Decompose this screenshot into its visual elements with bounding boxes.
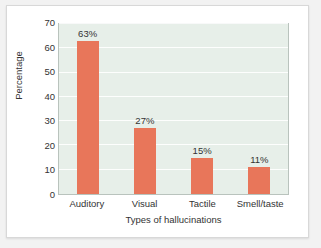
bar-slot: 11% (231, 24, 288, 194)
y-axis-tick-label: 50 (27, 67, 55, 77)
y-axis-tick-labels: 010203040506070 (27, 23, 55, 195)
x-axis-tick-label: Tactile (174, 198, 232, 209)
plot-area: 63%27%15%11% (58, 23, 289, 195)
y-axis-tick-label: 40 (27, 92, 55, 102)
x-axis-tick-labels: AuditoryVisualTactileSmell/taste (58, 198, 289, 209)
y-axis-tick-label: 20 (27, 141, 55, 151)
y-axis-tick-label: 30 (27, 117, 55, 127)
bar: 15% (191, 158, 213, 194)
bar: 27% (134, 128, 156, 194)
x-axis-title: Types of hallucinations (58, 214, 289, 225)
figure-card: Percentage 010203040506070 63%27%15%11% … (6, 5, 309, 238)
bar-value-label: 11% (250, 154, 268, 165)
bar-series: 63%27%15%11% (59, 24, 288, 194)
bar-value-label: 27% (135, 115, 154, 126)
y-axis-tick-label: 70 (27, 18, 55, 28)
y-axis-tick-label: 10 (27, 166, 55, 176)
x-axis-tick-label: Smell/taste (231, 198, 289, 209)
y-axis-title: Percentage (13, 36, 24, 116)
bar: 11% (248, 167, 270, 194)
y-axis-tick-label: 60 (27, 43, 55, 53)
x-axis-tick-label: Auditory (58, 198, 116, 209)
bar-value-label: 63% (78, 28, 97, 39)
bar-value-label: 15% (193, 145, 212, 156)
x-axis-tick-label: Visual (116, 198, 174, 209)
bar-slot: 15% (174, 24, 231, 194)
bar-slot: 27% (116, 24, 173, 194)
bar: 63% (77, 41, 99, 194)
bar-slot: 63% (59, 24, 116, 194)
y-axis-tick-label: 0 (27, 190, 55, 200)
